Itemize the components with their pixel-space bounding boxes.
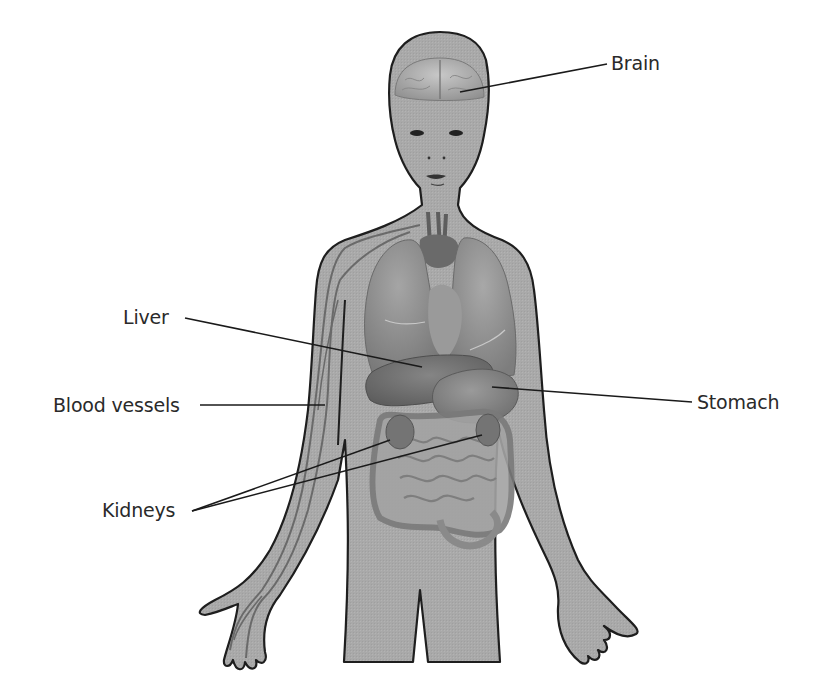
- right-kidney: [476, 414, 500, 446]
- stomach-label: Stomach: [697, 393, 779, 412]
- brain-label: Brain: [611, 54, 660, 73]
- blood-vessels-label: Blood vessels: [53, 396, 180, 415]
- body-illustration: [0, 0, 834, 685]
- body-organs-diagram: Brain Liver Blood vessels Stomach Kidney…: [0, 0, 834, 685]
- left-kidney: [386, 415, 414, 449]
- kidneys-label: Kidneys: [102, 501, 175, 520]
- liver-label: Liver: [123, 308, 169, 327]
